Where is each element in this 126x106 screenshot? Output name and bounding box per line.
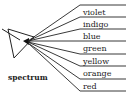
spectrum-caption: spectrum bbox=[8, 73, 48, 82]
prism-dispersion-diagram bbox=[0, 0, 126, 106]
color-label-green: green bbox=[83, 44, 107, 53]
color-label-indigo: indigo bbox=[83, 20, 108, 29]
prism-icon bbox=[8, 29, 34, 58]
color-label-violet: violet bbox=[83, 8, 105, 17]
incident-ray bbox=[2, 29, 20, 40]
color-label-blue: blue bbox=[83, 32, 101, 41]
color-label-yellow: yellow bbox=[83, 57, 109, 66]
color-label-red: red bbox=[83, 82, 97, 91]
color-label-orange: orange bbox=[83, 69, 111, 78]
dispersion-point bbox=[23, 38, 29, 45]
